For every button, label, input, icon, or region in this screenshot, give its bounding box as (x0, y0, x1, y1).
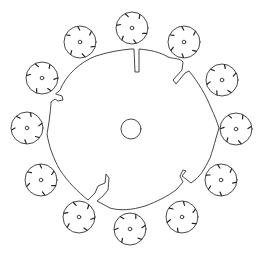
satellite-center-dot (130, 26, 134, 30)
satellite-outline (63, 201, 95, 233)
tick-mark (193, 209, 195, 212)
tick-mark (248, 127, 251, 129)
satellite-center-dot (40, 76, 44, 80)
tick-mark (64, 213, 68, 214)
tick-mark (49, 65, 50, 69)
tick-mark (67, 224, 69, 228)
tick-mark (71, 51, 72, 55)
tick-mark (194, 31, 196, 35)
tick-mark (125, 14, 128, 17)
satellite-circle (26, 62, 58, 94)
satellite-center-dot (180, 215, 184, 219)
tick-mark (178, 228, 179, 232)
tick-mark (182, 54, 183, 58)
tick-mark (122, 238, 123, 242)
tick-mark (122, 36, 123, 40)
tick-mark (91, 218, 95, 219)
satellite-outline (64, 26, 96, 58)
tick-mark (138, 238, 142, 239)
tick-mark (183, 202, 184, 206)
tick-mark (48, 89, 51, 91)
tick-mark (52, 171, 54, 174)
tick-mark (35, 64, 38, 67)
satellite-outline (205, 164, 237, 196)
tick-mark (84, 228, 87, 230)
satellite-outline (26, 62, 58, 94)
tick-mark (209, 186, 211, 189)
tick-mark (167, 220, 170, 223)
satellite-outline (114, 213, 146, 245)
tick-mark (229, 115, 232, 118)
satellite-center-dot (128, 227, 132, 231)
tick-mark (115, 228, 119, 230)
satellite-outline (116, 12, 148, 44)
tick-mark (218, 165, 220, 168)
tick-mark (88, 205, 89, 209)
satellite-circle (25, 164, 57, 196)
satellite-circle (11, 112, 43, 144)
satellite-circle (168, 26, 200, 58)
satellite-circle (114, 213, 146, 245)
tick-mark (193, 50, 197, 51)
tick-mark (233, 73, 236, 76)
tick-mark (169, 208, 173, 209)
diagram-svg (0, 0, 261, 257)
tick-mark (211, 69, 215, 71)
tick-mark (27, 75, 31, 76)
tick-mark (31, 113, 32, 117)
satellite-outline (11, 112, 43, 144)
satellite-outline (220, 113, 252, 145)
satellite-circle (116, 12, 148, 44)
tick-mark (43, 192, 45, 195)
tick-mark (134, 40, 136, 43)
tick-mark (221, 127, 225, 128)
satellite-center-dot (220, 78, 224, 82)
tick-mark (207, 82, 210, 84)
center-circle (121, 119, 141, 139)
tick-mark (182, 27, 184, 30)
tick-mark (233, 182, 237, 183)
tick-mark (121, 217, 124, 219)
satellite-circle (205, 164, 237, 196)
satellite-circle (206, 64, 238, 96)
satellite-center-dot (77, 215, 81, 219)
tick-mark (17, 117, 21, 119)
tick-mark (171, 47, 173, 50)
satellite-circles (11, 12, 252, 245)
tick-mark (54, 78, 58, 79)
tick-mark (82, 54, 85, 57)
tick-mark (220, 192, 222, 196)
satellite-center-dot (182, 40, 186, 44)
tick-mark (73, 203, 76, 206)
tick-mark (117, 25, 121, 26)
tick-mark (12, 128, 15, 130)
satellite-center-dot (78, 40, 82, 44)
tick-mark (78, 27, 80, 30)
tick-mark (40, 165, 42, 169)
tick-mark (28, 172, 32, 173)
tick-mark (228, 91, 231, 93)
satellite-outline (166, 201, 198, 233)
tick-mark (239, 141, 242, 144)
satellite-circle (166, 201, 198, 233)
diagram-canvas (0, 0, 261, 257)
satellite-circle (220, 113, 252, 145)
satellite-circle (64, 26, 96, 58)
tick-mark (90, 31, 92, 35)
tick-mark (39, 124, 42, 126)
tick-mark (142, 226, 145, 228)
tick-mark (25, 140, 26, 144)
satellite-center-dot (234, 127, 238, 131)
outer-irregular-circle (47, 49, 219, 210)
tick-mark (139, 15, 140, 19)
satellite-circle (63, 201, 95, 233)
tick-mark (27, 184, 30, 187)
tick-mark (230, 169, 231, 173)
tick-mark (227, 138, 228, 142)
satellite-center-dot (219, 178, 223, 182)
tick-mark (36, 137, 40, 138)
tick-mark (224, 65, 225, 69)
satellite-outline (168, 26, 200, 58)
satellite-center-dot (25, 126, 29, 130)
satellite-outline (25, 164, 57, 196)
